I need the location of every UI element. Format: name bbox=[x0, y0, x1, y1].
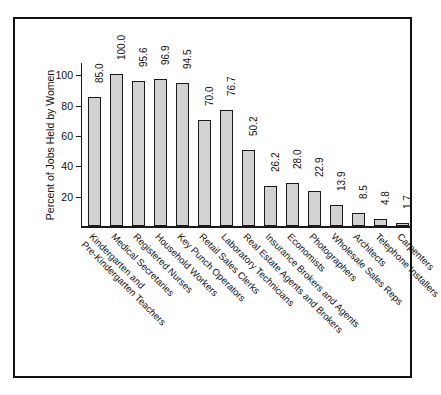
x-axis-category-label-line: Telephone Installers bbox=[373, 231, 381, 239]
x-axis-category-labels: Kindergarten andPre-Kindergarten Teacher… bbox=[81, 229, 431, 389]
bar[interactable] bbox=[396, 223, 409, 226]
x-axis-category-label: Architects bbox=[351, 231, 359, 239]
bar-value-label: 100.0 bbox=[117, 35, 127, 60]
x-axis-category-label-line: Registered Nurses bbox=[131, 231, 139, 239]
bar[interactable] bbox=[286, 183, 299, 226]
x-axis-category-label-line: Economists bbox=[285, 231, 293, 239]
bar-value-label: 50.2 bbox=[249, 116, 259, 135]
bar-value-label: 26.2 bbox=[271, 153, 281, 172]
x-axis-category-label-line: Real Estate Agents and Brokers bbox=[241, 231, 249, 239]
bar-value-label: 94.5 bbox=[183, 49, 193, 68]
y-axis-line bbox=[81, 63, 82, 227]
y-axis-tick-mark bbox=[76, 166, 81, 167]
bar[interactable] bbox=[88, 97, 101, 226]
bar-value-label: 22.9 bbox=[315, 158, 325, 177]
bar-value-label: 4.8 bbox=[381, 191, 391, 205]
x-axis-line bbox=[81, 226, 411, 228]
x-axis-category-label: Registered Nurses bbox=[131, 231, 139, 239]
y-axis-tick-label: 20 bbox=[61, 191, 73, 202]
bar-value-label: 28.0 bbox=[293, 150, 303, 169]
x-axis-category-label-line: Laboratory Technicians bbox=[219, 231, 227, 239]
y-axis-tick-label: 100 bbox=[55, 70, 73, 81]
x-axis-category-label: Key Punch Operators bbox=[175, 231, 183, 239]
x-axis-category-label: Photographers bbox=[307, 231, 315, 239]
x-axis-category-label-line: Insurance Brokers and Agents bbox=[263, 231, 271, 239]
bar[interactable] bbox=[220, 110, 233, 226]
x-axis-category-label-line: Pre-Kindergarten Teachers bbox=[79, 239, 87, 247]
x-axis-category-label: Carpenters bbox=[395, 231, 403, 239]
x-axis-category-label-line: Carpenters bbox=[395, 231, 403, 239]
plot-area: 20406080100 85.0100.095.696.994.570.076.… bbox=[81, 63, 411, 227]
x-axis-category-label-line: Retail Sales Clerks bbox=[197, 231, 205, 239]
bar-value-label: 1.7 bbox=[403, 196, 413, 210]
y-axis-tick-mark bbox=[76, 106, 81, 107]
bar[interactable] bbox=[308, 191, 321, 226]
y-axis-tick-label: 40 bbox=[61, 161, 73, 172]
bar-value-label: 70.0 bbox=[205, 86, 215, 105]
bar[interactable] bbox=[374, 219, 387, 226]
x-axis-category-label: Real Estate Agents and Brokers bbox=[241, 231, 249, 239]
y-axis-tick-mark bbox=[76, 136, 81, 137]
x-axis-category-label: Economists bbox=[285, 231, 293, 239]
x-axis-category-label-line: Key Punch Operators bbox=[175, 231, 183, 239]
bar[interactable] bbox=[154, 79, 167, 226]
x-axis-category-label-line: Kindergarten and bbox=[87, 231, 95, 239]
x-axis-category-label: Medical Secretaries bbox=[109, 231, 117, 239]
x-axis-category-label: Telephone Installers bbox=[373, 231, 381, 239]
bar-value-label: 95.6 bbox=[139, 47, 149, 66]
bar[interactable] bbox=[110, 74, 123, 226]
x-axis-category-label-line: Wholesale Sales Reps bbox=[329, 231, 337, 239]
y-axis-tick-mark bbox=[76, 75, 81, 76]
bar[interactable] bbox=[242, 150, 255, 226]
bar[interactable] bbox=[198, 120, 211, 226]
y-axis-tick-label: 80 bbox=[61, 100, 73, 111]
y-axis-tick-label: 60 bbox=[61, 131, 73, 142]
y-axis-title-text: Percent of Jobs Held by Women bbox=[43, 63, 57, 227]
x-axis-category-label-line: Photographers bbox=[307, 231, 315, 239]
bar[interactable] bbox=[264, 186, 277, 226]
x-axis-category-label: Laboratory Technicians bbox=[219, 231, 227, 239]
x-axis-category-label: Retail Sales Clerks bbox=[197, 231, 205, 239]
bar[interactable] bbox=[352, 213, 365, 226]
x-axis-category-label: Insurance Brokers and Agents bbox=[263, 231, 271, 239]
x-axis-category-label-line: Architects bbox=[351, 231, 359, 239]
y-axis-tick-mark bbox=[76, 197, 81, 198]
x-axis-category-label: Household Workers bbox=[153, 231, 161, 239]
x-axis-category-label: Kindergarten andPre-Kindergarten Teacher… bbox=[79, 231, 95, 247]
bar-value-label: 96.9 bbox=[161, 45, 171, 64]
x-axis-category-label-line: Household Workers bbox=[153, 231, 161, 239]
x-axis-category-label: Wholesale Sales Reps bbox=[329, 231, 337, 239]
bar[interactable] bbox=[176, 83, 189, 227]
bar-value-label: 85.0 bbox=[95, 63, 105, 82]
bar-value-label: 13.9 bbox=[337, 171, 347, 190]
y-axis-title: Percent of Jobs Held by Women bbox=[43, 0, 57, 63]
bar-value-label: 8.5 bbox=[359, 185, 369, 199]
bar[interactable] bbox=[330, 205, 343, 226]
bar-value-label: 76.7 bbox=[227, 76, 237, 95]
x-axis-category-label-line: Medical Secretaries bbox=[109, 231, 117, 239]
bar[interactable] bbox=[132, 81, 145, 226]
chart-frame: Percent of Jobs Held by Women 2040608010… bbox=[13, 17, 412, 378]
